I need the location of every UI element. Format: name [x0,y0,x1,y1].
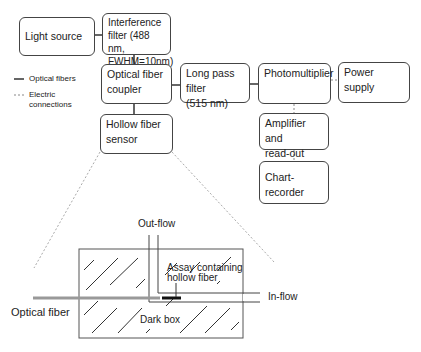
legend-electric-label: Electric connections [29,90,72,110]
long-pass-line2: (515 nm) [186,96,244,111]
photomultiplier-block: Photomultiplier [258,63,331,104]
in-flow-label: In-flow [268,291,297,302]
interference-filter-line2: filter (488 nm, [108,29,165,55]
legend-electric-line1: Electric [29,90,72,100]
photomultiplier-label: Photomultiplier [264,66,325,81]
coupler-line1: Optical fiber [107,67,166,82]
assay-line2: hollow fiber [167,273,243,283]
long-pass-filter-block: Long pass filter (515 nm) [180,63,250,103]
coupler-line2: coupler [107,82,166,97]
interference-filter-line1: Interference [108,16,165,29]
light-source-label: Light source [25,29,82,44]
hollow-fiber-sensor-block: Hollow fiber sensor [100,114,173,154]
optical-fiber-coupler-block: Optical fiber coupler [101,64,172,104]
long-pass-line1: Long pass filter [186,66,244,96]
sensor-line2: sensor [106,132,167,147]
power-supply-block: Power supply [338,62,410,103]
assay-label: Assay containing hollow fiber [167,263,243,283]
interference-filter-block: Interference filter (488 nm, FWHM=10nm) [102,13,171,55]
chart-recorder-block: Chart-recorder [259,161,329,204]
legend-electric-line2: connections [29,100,72,110]
chart-recorder-label: Chart-recorder [265,170,323,200]
out-flow-label: Out-flow [138,218,175,229]
dark-box-label: Dark box [140,314,180,325]
power-supply-label: Power supply [344,65,404,95]
legend-optical-label: Optical fibers [29,74,76,84]
sensor-line1: Hollow fiber [106,117,167,132]
amplifier-block: Amplifier and read-out [259,113,329,150]
amplifier-line1: Amplifier and [265,116,323,146]
optical-fiber-label: Optical fiber [11,306,70,318]
amplifier-line2: read-out [265,146,323,161]
light-source-block: Light source [19,17,95,56]
